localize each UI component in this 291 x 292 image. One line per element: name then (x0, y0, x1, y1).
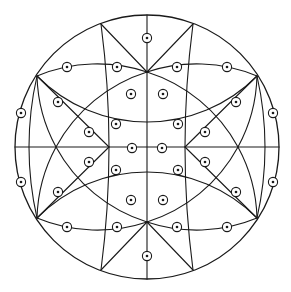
pole-dot-icon (176, 226, 179, 229)
pole-dot-icon (177, 123, 180, 126)
pole-marker (53, 97, 62, 106)
pole-marker (62, 62, 71, 71)
pole-dot-icon (66, 66, 69, 69)
pole-marker (112, 222, 121, 231)
pole-marker (173, 165, 182, 174)
pole-dot-icon (116, 226, 119, 229)
pole-dot-icon (115, 123, 118, 126)
pole-dot-icon (115, 169, 118, 172)
pole-dot-icon (130, 93, 133, 96)
pole-dot-icon (116, 66, 119, 69)
great-circle-arc (147, 64, 257, 76)
pole-dot-icon (57, 191, 60, 194)
pole-dot-icon (272, 112, 275, 115)
pole-dot-icon (176, 66, 179, 69)
pole-marker (111, 165, 120, 174)
pole-dot-icon (177, 169, 180, 172)
pole-marker (173, 119, 182, 128)
pole-dot-icon (130, 199, 133, 202)
pole-marker (142, 251, 151, 260)
great-circle-arc (37, 218, 147, 230)
pole-marker (172, 222, 181, 231)
pole-marker (200, 157, 209, 166)
pole-dot-icon (204, 161, 207, 164)
great-circles (15, 15, 279, 279)
pole-dot-icon (66, 226, 69, 229)
pole-marker (231, 187, 240, 196)
pole-marker (126, 89, 135, 98)
pole-marker (172, 62, 181, 71)
great-circle-arc (37, 64, 147, 76)
pole-marker (222, 222, 231, 231)
pole-marker (126, 195, 135, 204)
pole-dot-icon (131, 147, 134, 150)
pole-marker (200, 127, 209, 136)
pole-dot-icon (146, 255, 149, 258)
pole-marker (112, 62, 121, 71)
pole-dot-icon (226, 226, 229, 229)
pole-marker (16, 108, 25, 117)
pole-marker (268, 177, 277, 186)
pole-marker (158, 89, 167, 98)
pole-dot-icon (272, 181, 275, 184)
pole-dot-icon (57, 101, 60, 104)
pole-dot-icon (88, 161, 91, 164)
pole-dot-icon (20, 112, 23, 115)
pole-dot-icon (162, 199, 165, 202)
stereographic-projection-diagram (0, 0, 291, 292)
pole-dot-icon (235, 101, 238, 104)
pole-marker (231, 97, 240, 106)
pole-marker (53, 187, 62, 196)
pole-dot-icon (146, 37, 149, 40)
pole-marker (16, 177, 25, 186)
pole-dot-icon (161, 147, 164, 150)
pole-marker (84, 157, 93, 166)
pole-marker (62, 222, 71, 231)
pole-marker (158, 195, 167, 204)
pole-marker (142, 33, 151, 42)
pole-marker (157, 143, 166, 152)
pole-dot-icon (20, 181, 23, 184)
great-circle-arc (147, 218, 257, 230)
pole-dot-icon (88, 131, 91, 134)
pole-dot-icon (204, 131, 207, 134)
pole-dot-icon (162, 93, 165, 96)
pole-marker (222, 62, 231, 71)
pole-marker (127, 143, 136, 152)
pole-dot-icon (235, 191, 238, 194)
pole-dot-icon (226, 66, 229, 69)
pole-marker (84, 127, 93, 136)
pole-marker (268, 108, 277, 117)
pole-marker (111, 119, 120, 128)
